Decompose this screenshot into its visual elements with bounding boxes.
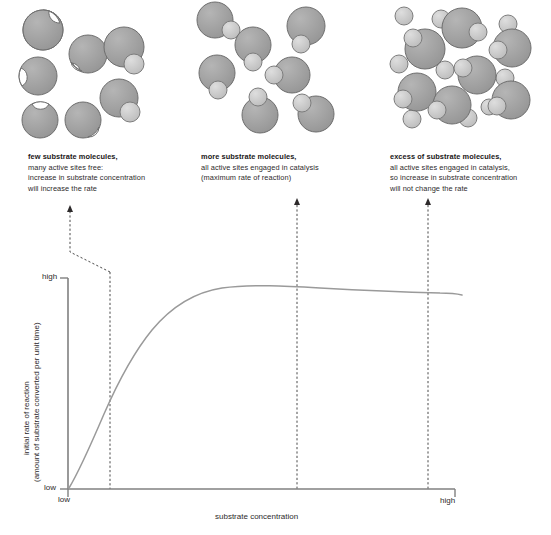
y-axis-tick-label-high: high bbox=[42, 272, 57, 281]
y-axis-title-line-1: initial rate of reaction bbox=[22, 381, 31, 455]
annotation-arrowhead bbox=[294, 198, 300, 205]
annotation-leader-line bbox=[70, 211, 110, 272]
annotation-marker-more bbox=[294, 198, 300, 489]
annotation-arrowhead bbox=[425, 198, 431, 205]
x-axis-tick-label-high: high bbox=[440, 496, 455, 505]
figure-root: few substrate molecules, many active sit… bbox=[0, 0, 551, 535]
rate-vs-concentration-chart bbox=[0, 0, 551, 535]
annotation-marker-excess bbox=[425, 198, 431, 489]
rate-curve bbox=[69, 286, 462, 488]
annotation-marker-few bbox=[67, 205, 110, 489]
x-axis-title: substrate concentration bbox=[215, 512, 298, 521]
annotation-arrowhead bbox=[67, 205, 73, 212]
chart-axes bbox=[60, 278, 455, 497]
x-axis-tick-label-low: low bbox=[58, 495, 70, 504]
y-axis-title-line-2: (amount of substrate converted per unit … bbox=[32, 322, 41, 482]
y-axis-tick-label-low: low bbox=[44, 483, 56, 492]
